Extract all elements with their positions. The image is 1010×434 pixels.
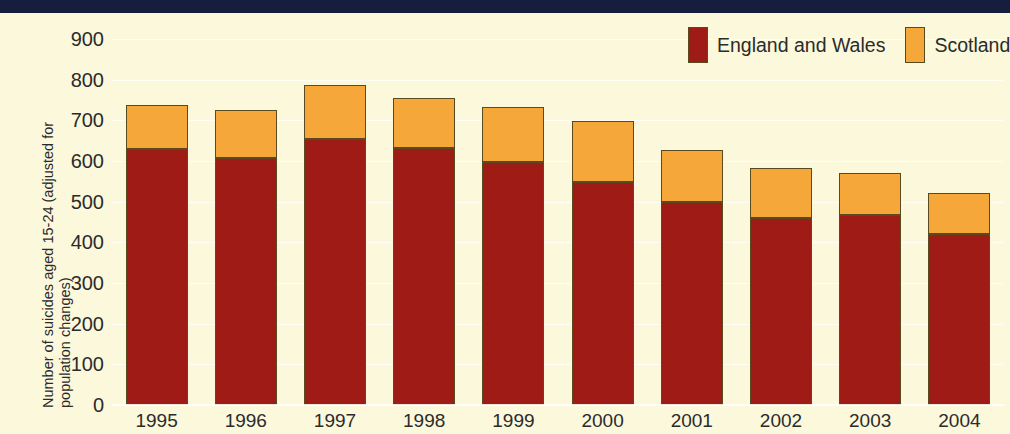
- bar-segment[interactable]: [750, 218, 812, 405]
- bar-segment[interactable]: [393, 98, 455, 148]
- y-axis-tick-label: 200: [58, 314, 104, 334]
- bar-segment[interactable]: [215, 158, 277, 405]
- y-axis-tick-label: 900: [58, 29, 104, 49]
- legend-item[interactable]: England and Wales: [688, 26, 905, 64]
- top-header-bar: [0, 0, 1010, 13]
- x-axis-tick-label: 1999: [469, 410, 558, 431]
- bar-group[interactable]: [126, 39, 188, 405]
- bar-segment[interactable]: [839, 173, 901, 214]
- y-axis-title-container: Number of suicides aged 15-24 (adjusted …: [0, 60, 46, 410]
- legend-swatch: [688, 27, 708, 63]
- bar-segment[interactable]: [126, 149, 188, 405]
- x-axis-tick-label: 1997: [290, 410, 379, 431]
- x-axis-tick-label: 2004: [915, 410, 1004, 431]
- bar-segment[interactable]: [482, 107, 544, 162]
- y-axis-tick-label: 600: [58, 151, 104, 171]
- bar-group[interactable]: [304, 39, 366, 405]
- plot-area: [112, 39, 1004, 405]
- x-axis-tick-label: 2001: [647, 410, 736, 431]
- bar-segment[interactable]: [393, 148, 455, 405]
- bar-segment[interactable]: [928, 193, 990, 234]
- legend-label: Scotland: [934, 34, 1010, 57]
- bar-group[interactable]: [839, 39, 901, 405]
- chart-legend: England and WalesScotland: [688, 26, 1010, 64]
- y-axis-tick-labels: 0100200300400500600700800900: [52, 39, 104, 405]
- bar-segment[interactable]: [482, 162, 544, 405]
- y-axis-tick-label: 0: [58, 395, 104, 415]
- bar-group[interactable]: [482, 39, 544, 405]
- legend-label: England and Wales: [717, 34, 885, 57]
- bar-segment[interactable]: [572, 182, 634, 405]
- legend-swatch: [905, 27, 925, 63]
- bar-segment[interactable]: [661, 202, 723, 405]
- x-axis-tick-label: 1995: [112, 410, 201, 431]
- x-axis-tick-label: 2003: [826, 410, 915, 431]
- bar-group[interactable]: [928, 39, 990, 405]
- chart-page: Number of suicides aged 15-24 (adjusted …: [0, 0, 1010, 434]
- bar-group[interactable]: [215, 39, 277, 405]
- x-axis-tick-label: 2002: [736, 410, 825, 431]
- x-axis-baseline: [112, 404, 1004, 406]
- bar-segment[interactable]: [839, 215, 901, 405]
- y-axis-tick-label: 100: [58, 354, 104, 374]
- y-axis-tick-label: 700: [58, 110, 104, 130]
- x-axis-tick-label: 1996: [201, 410, 290, 431]
- x-axis-tick-label: 2000: [558, 410, 647, 431]
- bar-segment[interactable]: [572, 121, 634, 182]
- y-axis-tick-label: 300: [58, 273, 104, 293]
- legend-item[interactable]: Scotland: [905, 26, 1010, 64]
- y-axis-tick-label: 400: [58, 232, 104, 252]
- bar-segment[interactable]: [215, 110, 277, 158]
- bar-group[interactable]: [661, 39, 723, 405]
- bar-segment[interactable]: [304, 85, 366, 139]
- x-axis-tick-label: 1998: [380, 410, 469, 431]
- bar-segment[interactable]: [304, 139, 366, 405]
- bar-segment[interactable]: [928, 234, 990, 405]
- bar-segment[interactable]: [126, 105, 188, 149]
- bar-group[interactable]: [750, 39, 812, 405]
- bar-group[interactable]: [393, 39, 455, 405]
- bar-segment[interactable]: [750, 168, 812, 218]
- bar-group[interactable]: [572, 39, 634, 405]
- y-axis-tick-label: 800: [58, 70, 104, 90]
- bar-segment[interactable]: [661, 150, 723, 202]
- y-axis-tick-label: 500: [58, 192, 104, 212]
